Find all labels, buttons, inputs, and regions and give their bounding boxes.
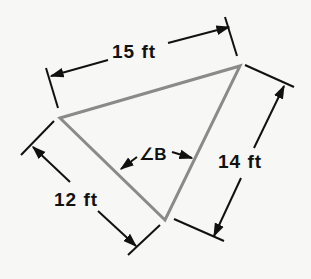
label-top-side: 15 ft [112, 42, 156, 61]
extension-line-right-top [245, 65, 294, 87]
triangle-diagram: 15 ft 14 ft 12 ft ∠B [0, 0, 311, 279]
dimension-arrow-top-right [168, 27, 229, 43]
dimension-arrow-top-left [51, 60, 108, 76]
dimension-arrow-right-bottom [214, 178, 241, 236]
dimension-arrow-left-top [33, 147, 70, 182]
angle-arrow-left [121, 157, 137, 169]
dimension-arrow-left-bottom [98, 211, 136, 246]
label-angle-b: ∠B [139, 146, 167, 163]
dimension-left [21, 121, 160, 255]
dimension-arrow-right-top [254, 86, 284, 148]
label-left-side: 12 ft [54, 190, 98, 209]
label-right-side: 14 ft [218, 152, 262, 171]
extension-line-left-bottom [128, 225, 160, 255]
angle-arrow-right [172, 152, 192, 158]
extension-line-top-right [225, 17, 237, 56]
